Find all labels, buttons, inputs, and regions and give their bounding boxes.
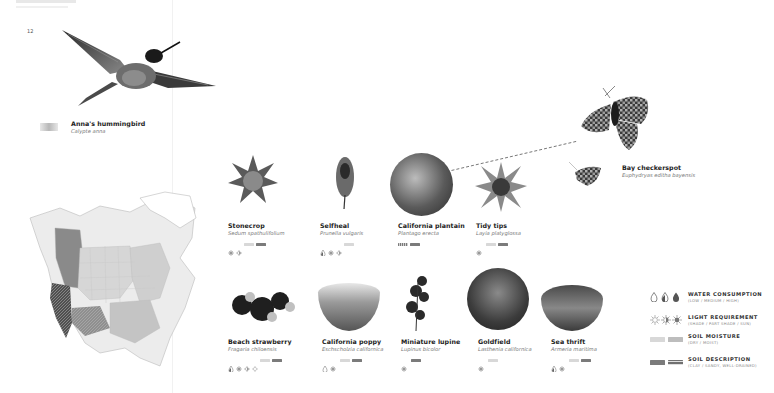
hummingbird-label: Anna's hummingbird Calypte anna — [71, 120, 145, 134]
part-shade-icon — [336, 241, 342, 247]
soil-clay-icon — [272, 359, 282, 362]
plant-name: Beach strawberry — [228, 338, 292, 345]
plant-scientific-name: Layia platyglossa — [476, 230, 521, 236]
plant-requirement-icons — [478, 357, 532, 363]
soil-sandy-icon — [398, 243, 408, 246]
plant-card: California plantain Plantago erecta — [398, 222, 465, 247]
legend-light: LIGHT REQUIREMENT(SHADE / PART SHADE / S… — [650, 310, 758, 329]
plant-scientific-name: Plantago erecta — [398, 230, 465, 236]
soil-clay-icon — [352, 359, 362, 362]
plant-requirement-icons — [401, 357, 460, 363]
legend-icons — [650, 360, 688, 365]
species-scientific-name: Calypte anna — [71, 128, 145, 134]
plant-card: Goldfield Lasthenia californica — [478, 338, 532, 363]
miniature-lupine-image — [398, 273, 438, 333]
plant-card: California poppy Eschscholzia californic… — [322, 338, 383, 363]
soil-sandy-well-drained-icon — [668, 360, 683, 365]
plant-name: Stonecrop — [228, 222, 285, 229]
plant-name: Sea thrift — [551, 338, 597, 345]
part-shade-icon — [661, 310, 671, 329]
legend-subtitle: (DRY / MOIST) — [688, 340, 740, 345]
page-number: 12 — [27, 28, 33, 34]
soil-clay-icon — [650, 360, 665, 365]
water-medium-icon — [661, 287, 669, 306]
soil-moisture-dry-icon — [488, 359, 498, 362]
soil-moisture-moist-icon — [668, 337, 683, 342]
butterfly-label: Bay checkerspot Euphydryas editha bayens… — [622, 164, 695, 178]
sun-icon — [401, 357, 407, 363]
sun-icon — [559, 357, 565, 363]
plant-card: Tidy tips Layia platyglossa — [476, 222, 521, 247]
plant-requirement-icons — [320, 241, 363, 247]
legend-soil-moisture: SOIL MOISTURE(DRY / MOIST) — [650, 333, 740, 345]
header-mark — [16, 6, 68, 8]
plant-scientific-name: Sedum spathulifolium — [228, 230, 285, 236]
species-scientific-name: Euphydryas editha bayensis — [622, 172, 695, 178]
plant-requirement-icons — [476, 241, 521, 247]
water-low-icon — [322, 357, 328, 363]
legend-soil-description: SOIL DESCRIPTION(CLAY / SANDY, WELL-DRAI… — [650, 356, 757, 368]
part-shade-icon — [244, 357, 250, 363]
sun-icon — [236, 357, 242, 363]
shade-icon — [252, 357, 258, 363]
legend-title: WATER CONSUMPTION — [688, 291, 762, 297]
water-medium-icon — [320, 241, 326, 247]
plant-scientific-name: Lasthenia californica — [478, 346, 532, 352]
stonecrop-image — [228, 153, 278, 205]
sea-thrift-image — [541, 285, 603, 331]
sun-icon — [228, 241, 234, 247]
soil-moisture-dry-icon — [569, 359, 579, 362]
hummingbird-habitat-swatch — [40, 123, 58, 131]
legend-title: SOIL DESCRIPTION — [688, 356, 757, 362]
sun-icon — [672, 310, 682, 329]
plant-card: Stonecrop Sedum spathulifolium — [228, 222, 285, 247]
hummingbird-illustration — [58, 26, 218, 108]
sun-icon — [476, 241, 482, 247]
legend-icons — [650, 337, 688, 342]
plant-scientific-name: Prunella vulgaris — [320, 230, 363, 236]
soil-moisture-dry-icon — [344, 243, 354, 246]
sun-icon — [478, 357, 484, 363]
plant-scientific-name: Armeria maritima — [551, 346, 597, 352]
plant-name: Selfheal — [320, 222, 363, 229]
plant-name: California plantain — [398, 222, 465, 229]
soil-moisture-dry-icon — [486, 243, 496, 246]
water-medium-icon — [228, 357, 234, 363]
legend-title: LIGHT REQUIREMENT — [688, 314, 758, 320]
soil-clay-icon — [581, 359, 591, 362]
legend-subtitle: (LOW / MEDIUM / HIGH) — [688, 298, 762, 303]
plant-name: Goldfield — [478, 338, 532, 345]
soil-moisture-dry-icon — [244, 243, 254, 246]
shade-icon — [650, 310, 660, 329]
water-high-icon — [672, 287, 680, 306]
soil-moisture-dry-icon — [340, 359, 350, 362]
plant-requirement-icons — [551, 357, 597, 363]
beach-strawberry-image — [228, 283, 300, 329]
soil-clay-icon — [410, 243, 420, 246]
plant-requirement-icons — [322, 357, 383, 363]
goldfield-image — [467, 268, 529, 330]
california-plantain-image — [390, 153, 453, 216]
legend-icons — [650, 287, 688, 306]
plant-name: California poppy — [322, 338, 383, 345]
plant-scientific-name: Eschscholzia californica — [322, 346, 383, 352]
soil-moisture-dry-icon — [260, 359, 270, 362]
tidy-tips-image — [473, 160, 529, 214]
soil-clay-icon — [498, 243, 508, 246]
california-poppy-image — [318, 283, 380, 331]
soil-clay-icon — [256, 243, 266, 246]
water-medium-icon — [551, 357, 557, 363]
header-mark — [16, 0, 76, 3]
plant-requirement-icons — [398, 241, 465, 247]
plant-card: Beach strawberry Fragaria chiloensis — [228, 338, 292, 363]
soil-moisture-dry-icon — [650, 337, 665, 342]
water-low-icon — [650, 287, 658, 306]
species-name: Bay checkerspot — [622, 164, 695, 171]
species-name: Anna's hummingbird — [71, 120, 145, 127]
selfheal-image — [330, 153, 360, 211]
plant-card: Selfheal Prunella vulgaris — [320, 222, 363, 247]
plant-card: Miniature lupine Lupinus bicolor — [401, 338, 460, 363]
plant-scientific-name: Lupinus bicolor — [401, 346, 460, 352]
legend-icons — [650, 310, 688, 329]
part-shade-icon — [236, 241, 242, 247]
